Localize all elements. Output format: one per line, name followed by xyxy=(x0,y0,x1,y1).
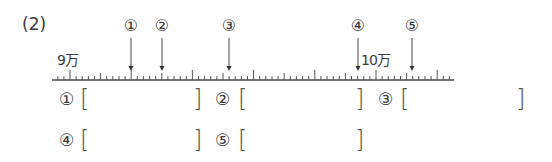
open-bracket-5: [ xyxy=(238,126,247,154)
close-bracket-2: ] xyxy=(355,85,364,113)
answer-field-3[interactable] xyxy=(412,90,512,112)
start-label-9man: 9万 xyxy=(57,49,78,69)
marker-label-1: ① xyxy=(124,16,138,35)
answer-label-2: ② xyxy=(215,89,230,109)
number-line: ①②③④⑤ xyxy=(0,0,552,90)
arrow-head-icon xyxy=(160,66,165,71)
open-bracket-3: [ xyxy=(400,85,409,113)
marker-label-4: ④ xyxy=(351,16,365,35)
marker-1: ① xyxy=(124,16,138,71)
marker-3: ③ xyxy=(222,16,236,71)
arrow-head-icon xyxy=(356,66,361,71)
close-bracket-5: ] xyxy=(355,126,364,154)
number-line-exercise: (2) ①②③④⑤ 9万 10万 ① [ ] ② [ ] ③ [ ] ④ [ ]… xyxy=(0,0,552,162)
arrow-head-icon xyxy=(410,66,415,71)
marker-5: ⑤ xyxy=(405,16,419,71)
answer-field-2[interactable] xyxy=(250,90,350,112)
end-label-10man: 10万 xyxy=(361,49,390,69)
answer-field-1[interactable] xyxy=(92,90,192,112)
marker-label-2: ② xyxy=(155,16,169,35)
answer-label-3: ③ xyxy=(378,89,393,109)
open-bracket-2: [ xyxy=(238,85,247,113)
marker-label-3: ③ xyxy=(222,16,236,35)
marker-label-5: ⑤ xyxy=(405,16,419,35)
answer-field-5[interactable] xyxy=(250,131,350,153)
answer-field-4[interactable] xyxy=(92,131,192,153)
answer-label-4: ④ xyxy=(59,130,74,150)
arrow-head-icon xyxy=(129,66,134,71)
marker-2: ② xyxy=(155,16,169,71)
open-bracket-1: [ xyxy=(80,85,89,113)
close-bracket-3: ] xyxy=(516,85,525,113)
close-bracket-1: ] xyxy=(193,85,202,113)
answer-label-5: ⑤ xyxy=(215,130,230,150)
arrow-head-icon xyxy=(227,66,232,71)
answer-label-1: ① xyxy=(59,89,74,109)
close-bracket-4: ] xyxy=(193,126,202,154)
open-bracket-4: [ xyxy=(80,126,89,154)
